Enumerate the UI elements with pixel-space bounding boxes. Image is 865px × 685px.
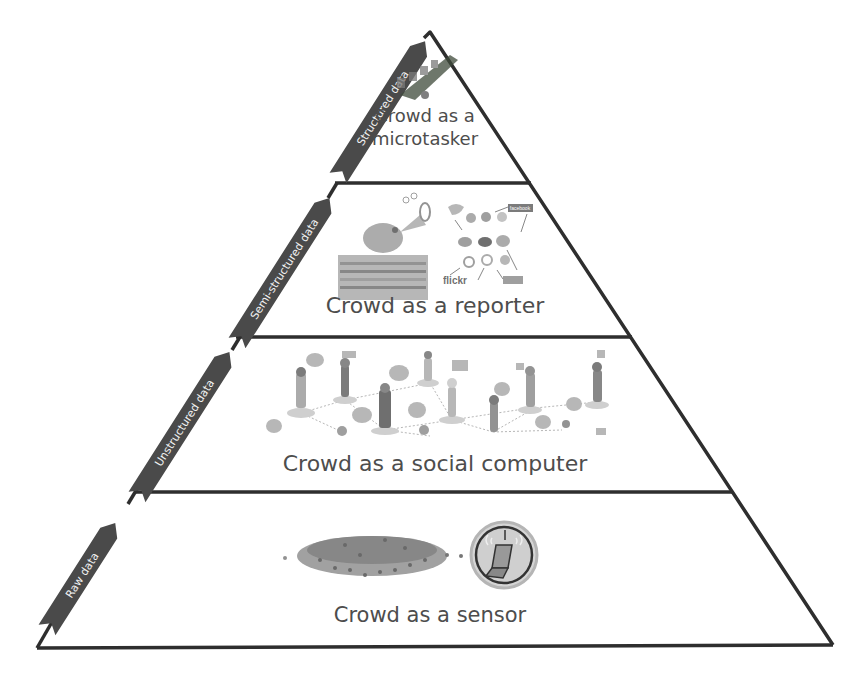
- crowd-pyramid-diagram: Structured data Semi-structured data Uns…: [0, 0, 865, 685]
- flickr-label: flickr: [443, 275, 467, 286]
- pyramid-left-edge-segment: [328, 183, 337, 198]
- layer-label-line: Crowd as a: [325, 104, 525, 127]
- social-network-icon: facebook flickr: [443, 204, 533, 286]
- layer-label-social-computer: Crowd as a social computer: [240, 451, 630, 476]
- pyramid-left-edge-segment: [37, 622, 52, 648]
- layer-label-sensor: Crowd as a sensor: [300, 603, 560, 627]
- facebook-label: facebook: [510, 205, 531, 211]
- crowd-icon: [283, 536, 463, 577]
- connected-people-icon: [266, 350, 609, 436]
- layer-label-line: microtasker: [325, 127, 525, 150]
- pyramid-base: [37, 645, 833, 648]
- arrow-raw-data: Raw data: [39, 518, 124, 636]
- bird-megaphone-icon: [338, 193, 430, 300]
- arrow-semi-structured-data: Semi-structured data: [229, 193, 338, 349]
- arrow-unstructured-data: Unstructured data: [129, 347, 238, 503]
- arrow-label: Unstructured data: [152, 377, 217, 468]
- layer-label-microtasker: Crowd as a microtasker: [325, 104, 525, 150]
- mobile-phone-signal-icon: [471, 522, 537, 588]
- layer-label-reporter: Crowd as a reporter: [280, 293, 590, 318]
